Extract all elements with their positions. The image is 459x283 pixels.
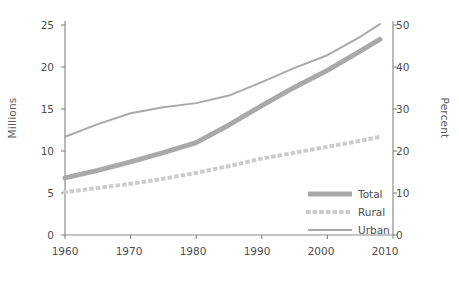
series-line-urban xyxy=(65,24,380,137)
axes xyxy=(61,21,397,239)
line-chart: Millions Percent 0 5 10 15 20 25 0 10 20… xyxy=(0,0,459,283)
plot-area xyxy=(0,0,459,283)
series-line-total xyxy=(65,39,380,178)
legend-swatches xyxy=(308,194,352,230)
data-series xyxy=(65,24,380,192)
